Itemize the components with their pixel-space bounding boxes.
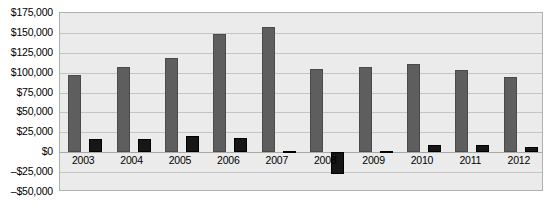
bar-series1 (213, 34, 226, 152)
x-axis-tick: 2004 (107, 154, 155, 166)
y-axis-tick: –$50,000 (11, 185, 53, 197)
x-axis-tick: 2006 (204, 154, 252, 166)
bar-series2 (138, 139, 151, 152)
x-axis-tick: 2008 (301, 154, 349, 166)
y-axis-tick: –$25,000 (11, 165, 53, 177)
bar-series1 (310, 69, 323, 153)
x-axis-tick: 2011 (446, 154, 494, 166)
bar-series2 (89, 139, 102, 153)
bar-series2 (283, 151, 296, 153)
y-axis-tick: $50,000 (16, 105, 53, 117)
bar-series1 (504, 77, 517, 153)
x-axis-tick: 2005 (156, 154, 204, 166)
bar-series2 (525, 147, 538, 152)
bar-series2 (476, 145, 489, 152)
y-axis-labels: $175,000$150,000$125,000$100,000$75,000$… (0, 0, 56, 215)
x-axis-tick: 2012 (495, 154, 543, 166)
x-axis-tick: 2003 (59, 154, 107, 166)
y-axis-tick: $175,000 (11, 6, 53, 18)
y-axis-tick: $150,000 (11, 26, 53, 38)
bar-series1 (359, 67, 372, 152)
x-axis-tick: 2007 (253, 154, 301, 166)
bar-series2 (428, 145, 441, 152)
y-axis-tick: $75,000 (16, 86, 53, 98)
y-axis-tick: $0 (42, 145, 53, 157)
x-axis-tick: 2010 (398, 154, 446, 166)
bar-series1 (407, 64, 420, 152)
bar-series1 (262, 27, 275, 152)
bar-series2 (234, 138, 247, 152)
y-axis-tick: $125,000 (11, 46, 53, 58)
bar-series2 (380, 151, 393, 153)
bar-series1 (117, 67, 130, 152)
y-axis-tick: $100,000 (11, 66, 53, 78)
bar-series1 (165, 58, 178, 153)
bar-series1 (455, 70, 468, 152)
x-axis-tick: 2009 (349, 154, 397, 166)
bar-series1 (68, 75, 81, 152)
bar-chart: $175,000$150,000$125,000$100,000$75,000$… (0, 0, 552, 215)
y-axis-tick: $25,000 (16, 125, 53, 137)
bar-series2 (186, 136, 199, 152)
